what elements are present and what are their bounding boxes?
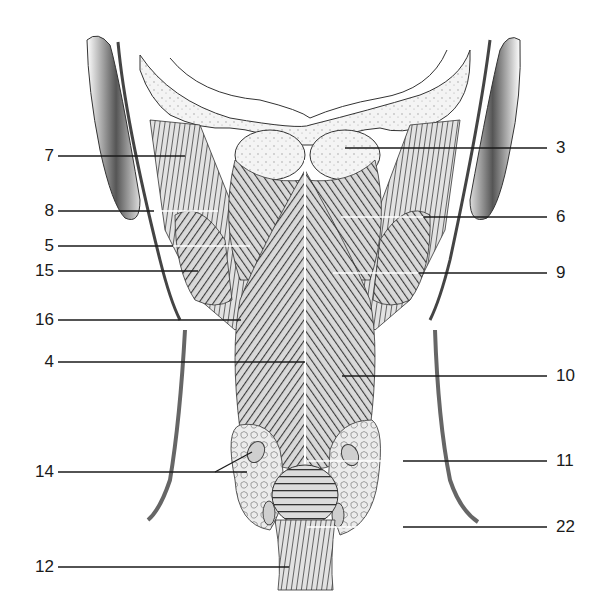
neck-outline-right <box>435 330 478 522</box>
cricopharyngeus <box>272 465 338 525</box>
label-16: 16 <box>14 310 54 330</box>
thyroid-lobe-left <box>231 424 283 530</box>
label-22: 22 <box>556 517 596 537</box>
label-9: 9 <box>556 263 596 283</box>
label-15: 15 <box>14 261 54 281</box>
label-12: 12 <box>14 557 54 577</box>
label-10: 10 <box>556 366 596 386</box>
label-14: 14 <box>14 462 54 482</box>
label-7: 7 <box>14 146 54 166</box>
label-6: 6 <box>556 207 596 227</box>
label-3: 3 <box>556 138 596 158</box>
esophagus <box>275 520 335 590</box>
label-8: 8 <box>14 201 54 221</box>
neck-outline-left <box>148 330 185 520</box>
pharynx-illustration <box>0 0 604 607</box>
label-4: 4 <box>14 352 54 372</box>
label-5: 5 <box>14 236 54 256</box>
label-11: 11 <box>556 451 596 471</box>
